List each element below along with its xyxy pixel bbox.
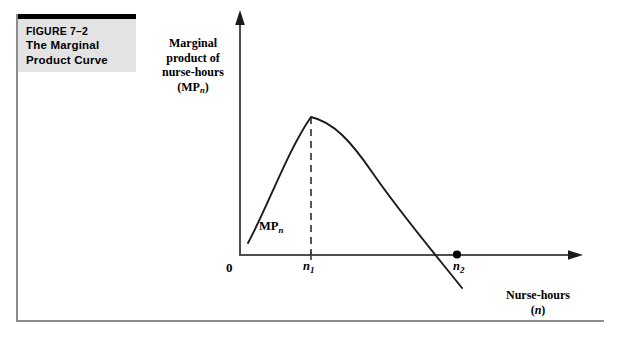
- x-axis-tick-label-n2: n2: [453, 259, 464, 275]
- origin-label: 0: [226, 260, 233, 276]
- tick-n2-subscript: 2: [460, 265, 465, 275]
- y-axis-symbol-subscript: n: [200, 85, 205, 95]
- y-axis-label-line-2: product of: [166, 51, 219, 65]
- x-axis-label-line-1: Nurse-hours: [506, 288, 570, 302]
- marginal-product-curve: [248, 117, 462, 288]
- x-axis-label-symbol: (n): [531, 303, 546, 317]
- y-axis-label: Marginal product of nurse-hours (MPn): [151, 36, 235, 97]
- x-axis-arrowhead-icon: [568, 250, 583, 260]
- y-axis-symbol-base: MP: [181, 80, 200, 94]
- y-axis-label-line-1: Marginal: [169, 36, 217, 50]
- curve-label-base: MP: [259, 219, 278, 233]
- curve-label-subscript: n: [278, 225, 283, 235]
- zero-marginal-product-point: [453, 250, 461, 258]
- tick-n2-base: n: [453, 259, 460, 273]
- tick-n1-subscript: 1: [310, 265, 315, 275]
- tick-n1-base: n: [303, 259, 310, 273]
- figure-page: FIGURE 7–2 The Marginal Product Curve Ma…: [0, 0, 619, 347]
- y-axis-arrowhead-icon: [235, 10, 245, 25]
- x-axis-symbol-variable: n: [535, 303, 542, 317]
- y-axis-label-symbol: (MPn): [177, 80, 208, 94]
- x-axis-tick-label-n1: n1: [303, 259, 314, 275]
- y-axis-label-line-3: nurse-hours: [162, 65, 224, 79]
- curve-label-mp: MPn: [259, 219, 283, 235]
- x-axis-label: Nurse-hours (n): [490, 288, 586, 317]
